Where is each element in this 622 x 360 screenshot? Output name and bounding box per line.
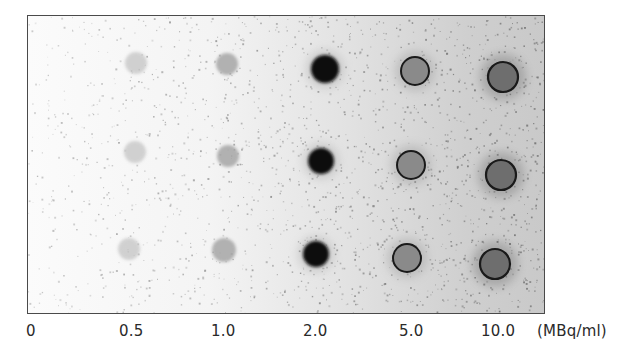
spot-row3-1-0 [212,238,236,262]
concentration-label-10-0: 10.0 [481,322,515,340]
concentration-label-0: 0 [26,322,36,340]
spot-row2-2-0 [303,143,339,179]
spot-row2-5-0 [391,145,431,185]
concentration-label-5-0: 5.0 [399,322,423,340]
background-speckle [28,16,545,314]
unit-label: (MBq/ml) [537,322,607,340]
spot-row2-1-0 [217,145,239,167]
spot-row2-0-5 [124,141,146,163]
spot-row1-5-0 [395,51,435,91]
dot-blot-spots [28,16,545,314]
concentration-label-2-0: 2.0 [303,322,327,340]
spot-row3-0-5 [118,238,140,260]
spot-row3-10-0 [472,241,518,287]
concentration-label-1-0: 1.0 [211,322,235,340]
spot-row3-2-0 [298,236,334,272]
spot-row1-1-0 [216,53,238,75]
concentration-label-0-5: 0.5 [119,322,143,340]
spot-row3-5-0 [387,238,427,278]
dot-blot-membrane [27,15,545,314]
spot-row1-0-5 [125,52,147,74]
spot-row1-2-0 [306,50,344,88]
spot-row1-10-0 [480,54,526,100]
spot-row2-10-0 [478,152,524,198]
